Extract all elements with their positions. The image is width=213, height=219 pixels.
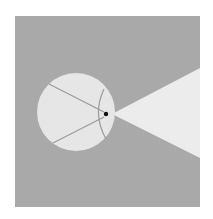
focal-point-dot (104, 112, 108, 116)
diagram-canvas (0, 0, 213, 219)
